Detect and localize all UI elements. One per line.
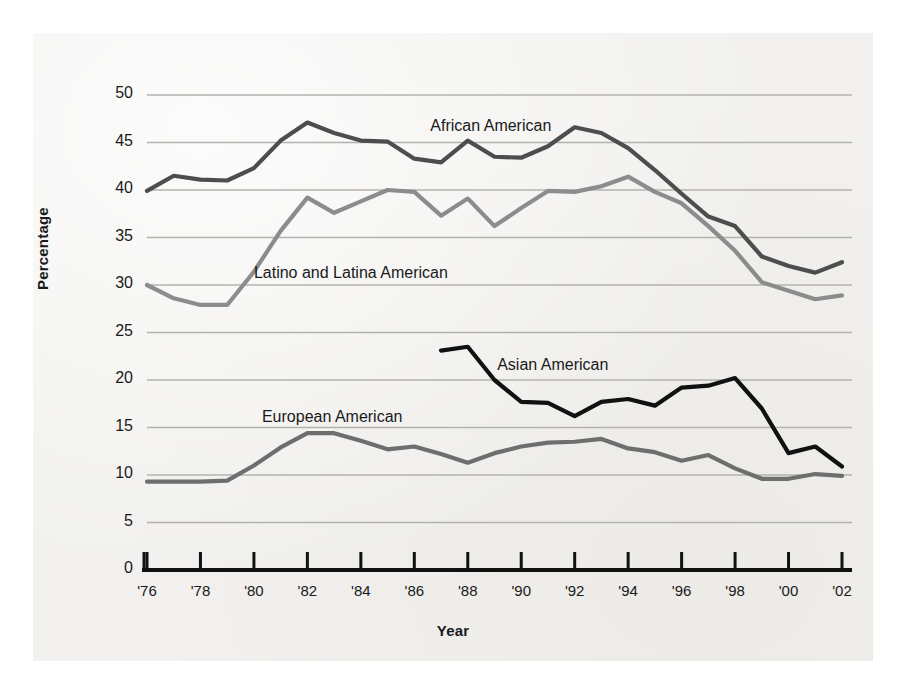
series-label-european-american: European American — [262, 408, 403, 426]
x-tick-label: '86 — [394, 582, 434, 599]
y-tick-label: 30 — [89, 274, 133, 292]
series-line-latino-and-latina-american — [147, 177, 842, 305]
x-tick-label: '92 — [555, 582, 595, 599]
x-tick-label: '88 — [448, 582, 488, 599]
series-label-african-american: African American — [430, 117, 551, 135]
x-tick-label: '90 — [501, 582, 541, 599]
series-label-latino-and-latina-american: Latino and Latina American — [254, 264, 448, 282]
y-tick-label: 15 — [89, 417, 133, 435]
x-tick-label: '80 — [234, 582, 274, 599]
y-axis-title: Percentage — [34, 207, 51, 290]
y-tick-label: 40 — [89, 179, 133, 197]
gridlines-group — [147, 95, 852, 523]
x-tick-label: '94 — [608, 582, 648, 599]
x-tick-label: '78 — [180, 582, 220, 599]
x-tick-label: '98 — [715, 582, 755, 599]
series-line-african-american — [147, 123, 842, 273]
x-tick-label: '02 — [822, 582, 862, 599]
x-tick-label: '00 — [769, 582, 809, 599]
y-tick-label: 50 — [89, 84, 133, 102]
y-tick-label: 5 — [89, 512, 133, 530]
x-tick-marks-group — [144, 552, 842, 568]
chart-page: 05101520253035404550 '76'78'80'82'84'86'… — [0, 0, 906, 695]
x-tick-label: '76 — [127, 582, 167, 599]
y-tick-label: 45 — [89, 132, 133, 150]
y-tick-label: 10 — [89, 464, 133, 482]
y-tick-label: 20 — [89, 369, 133, 387]
x-tick-label: '96 — [662, 582, 702, 599]
x-axis-title: Year — [0, 622, 906, 639]
y-tick-label: 25 — [89, 322, 133, 340]
series-label-asian-american: Asian American — [497, 356, 608, 374]
x-tick-label: '82 — [287, 582, 327, 599]
y-tick-label: 35 — [89, 227, 133, 245]
y-tick-label: 0 — [89, 559, 133, 577]
x-tick-label: '84 — [341, 582, 381, 599]
